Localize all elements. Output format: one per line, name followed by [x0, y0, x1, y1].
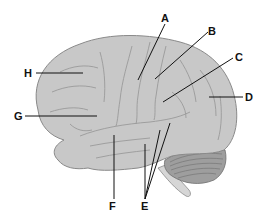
label-c: C: [235, 52, 243, 63]
label-f: F: [109, 201, 116, 212]
cerebrum: [36, 36, 237, 171]
label-a: A: [161, 13, 169, 24]
label-d: D: [245, 92, 253, 103]
label-h: H: [24, 68, 32, 79]
label-b: B: [208, 26, 216, 37]
label-g: G: [14, 111, 23, 122]
label-e: E: [141, 201, 148, 212]
brain-diagram: [0, 0, 264, 222]
